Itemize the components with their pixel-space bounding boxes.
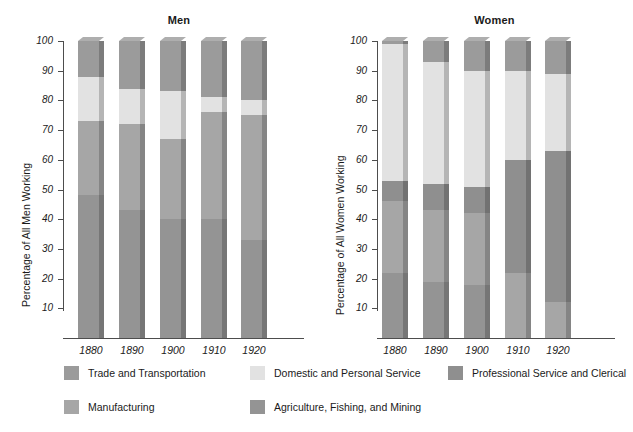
panel-women-title: Women bbox=[316, 14, 633, 26]
bar-segment-face bbox=[464, 285, 485, 338]
bar-segment-men-1890-0 bbox=[119, 210, 145, 338]
y-tick-label-men-30: 30 bbox=[21, 243, 53, 254]
bar-top-cap-face bbox=[505, 37, 531, 41]
bar-segment-side bbox=[140, 124, 145, 210]
legend-label: Trade and Transportation bbox=[88, 368, 206, 379]
bar-segment-side bbox=[485, 41, 490, 71]
legend-item: Domestic and Personal Service bbox=[250, 366, 420, 380]
bar-segment-face bbox=[464, 41, 485, 71]
bar-segment-face bbox=[241, 100, 262, 115]
bar-top-cap-face bbox=[382, 37, 408, 41]
bar-segment-women-1880-0 bbox=[382, 273, 408, 338]
y-tick-women-10 bbox=[372, 308, 377, 309]
bar-segment-side bbox=[444, 62, 449, 184]
y-tick-men-100 bbox=[58, 41, 63, 42]
y-tick-men-60 bbox=[58, 160, 63, 161]
bar-segment-side bbox=[140, 89, 145, 125]
bar-segment-side bbox=[566, 151, 571, 302]
bar-segment-face bbox=[119, 41, 140, 89]
bar-segment-women-1890-0 bbox=[423, 282, 449, 338]
bar-top-cap-women-1910 bbox=[505, 37, 531, 41]
bar-segment-side bbox=[99, 41, 104, 77]
bar-segment-face bbox=[160, 91, 181, 139]
bar-segment-side bbox=[403, 181, 408, 202]
y-tick-label-men-40: 40 bbox=[21, 213, 53, 224]
bar-segment-side bbox=[262, 100, 267, 115]
bar-segment-face bbox=[505, 71, 526, 160]
bar-segment-face bbox=[201, 219, 222, 338]
bar-segment-men-1900-2 bbox=[160, 91, 186, 139]
y-tick-label-women-10: 10 bbox=[335, 302, 367, 313]
bar-segment-face bbox=[423, 282, 444, 338]
chart-legend: Trade and TransportationDomestic and Per… bbox=[0, 358, 633, 432]
bar-segment-side bbox=[444, 282, 449, 338]
bar-segment-side bbox=[99, 195, 104, 338]
y-tick-label-women-70: 70 bbox=[335, 124, 367, 135]
y-tick-label-men-90: 90 bbox=[21, 65, 53, 76]
y-tick-label-men-10: 10 bbox=[21, 302, 53, 313]
bar-segment-side bbox=[262, 240, 267, 338]
bar-segment-women-1920-4 bbox=[545, 41, 571, 74]
bar-segment-face bbox=[382, 273, 403, 338]
bar-segment-face bbox=[505, 41, 526, 71]
panel-women-y-axis-title: Percentage of All Women Working bbox=[334, 155, 346, 315]
bar-segment-face bbox=[119, 89, 140, 125]
legend-swatch bbox=[448, 366, 463, 380]
bar-segment-side bbox=[526, 160, 531, 273]
bar-segment-side bbox=[222, 97, 227, 112]
legend-label: Professional Service and Clerical bbox=[472, 368, 626, 379]
bar-segment-face bbox=[423, 41, 444, 62]
bar-top-cap-men-1900 bbox=[160, 37, 186, 41]
y-tick-label-men-80: 80 bbox=[21, 94, 53, 105]
bar-segment-face bbox=[423, 62, 444, 184]
bar-segment-side bbox=[526, 41, 531, 71]
bar-segment-face bbox=[505, 273, 526, 338]
bar-segment-side bbox=[403, 44, 408, 181]
bar-segment-side bbox=[485, 71, 490, 187]
bar-segment-women-1920-3 bbox=[545, 74, 571, 151]
bar-top-cap-women-1880 bbox=[382, 37, 408, 41]
bar-segment-women-1910-3 bbox=[505, 71, 531, 160]
bar-segment-face bbox=[545, 151, 566, 302]
bar-segment-side bbox=[181, 91, 186, 139]
bar-segment-side bbox=[444, 184, 449, 211]
panel-men-x-axis-line bbox=[63, 338, 304, 339]
panel-women-x-axis-line bbox=[377, 338, 615, 339]
bar-men-1900 bbox=[160, 41, 186, 338]
y-tick-label-men-20: 20 bbox=[21, 273, 53, 284]
panel-men-y-axis-line bbox=[63, 41, 64, 311]
bar-segment-face bbox=[160, 41, 181, 91]
x-tick-label-men-1920: 1920 bbox=[229, 344, 279, 356]
y-tick-men-70 bbox=[58, 130, 63, 131]
bar-segment-women-1920-1 bbox=[545, 302, 571, 338]
bar-segment-face bbox=[160, 139, 181, 219]
bar-segment-face bbox=[201, 97, 222, 112]
y-tick-men-10 bbox=[58, 308, 63, 309]
bar-segment-women-1920-2 bbox=[545, 151, 571, 302]
bar-segment-side bbox=[444, 41, 449, 62]
bar-women-1900 bbox=[464, 41, 490, 338]
panel-women: Women Percentage of All Women Working 10… bbox=[316, 0, 633, 356]
y-tick-label-women-80: 80 bbox=[335, 94, 367, 105]
y-tick-women-40 bbox=[372, 219, 377, 220]
bar-segment-side bbox=[262, 115, 267, 240]
y-tick-women-60 bbox=[372, 160, 377, 161]
bar-top-cap-men-1880 bbox=[78, 37, 104, 41]
bar-segment-face bbox=[464, 71, 485, 187]
y-tick-label-women-30: 30 bbox=[335, 243, 367, 254]
bar-segment-face bbox=[201, 41, 222, 97]
bar-segment-face bbox=[545, 41, 566, 74]
bar-segment-men-1880-1 bbox=[78, 121, 104, 195]
y-tick-men-20 bbox=[58, 279, 63, 280]
y-tick-label-women-50: 50 bbox=[335, 184, 367, 195]
bar-segment-men-1910-0 bbox=[201, 219, 227, 338]
bar-segment-side bbox=[403, 201, 408, 272]
y-tick-women-90 bbox=[372, 71, 377, 72]
bar-segment-side bbox=[526, 273, 531, 338]
bar-segment-women-1910-2 bbox=[505, 160, 531, 273]
bar-top-cap-face bbox=[545, 37, 571, 41]
bar-segment-face bbox=[241, 240, 262, 338]
bar-top-cap-face bbox=[78, 37, 104, 41]
bar-segment-men-1920-1 bbox=[241, 115, 267, 240]
bar-segment-women-1880-3 bbox=[382, 44, 408, 181]
